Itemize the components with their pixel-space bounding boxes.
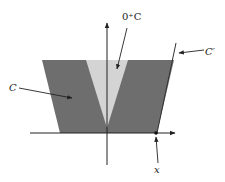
label-x: x xyxy=(154,164,160,175)
label-0plusc: 0⁺C xyxy=(122,11,142,22)
label-c-prime: C′ xyxy=(205,46,216,57)
point-x-dot xyxy=(154,131,158,135)
arrow-c-prime xyxy=(179,50,204,53)
recession-cone-diagram: 0⁺C C C′ x xyxy=(0,0,225,182)
label-c: C xyxy=(9,82,17,93)
arrow-x xyxy=(156,137,158,163)
